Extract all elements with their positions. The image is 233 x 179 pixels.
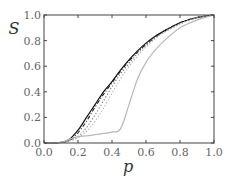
series-solid-light-gray xyxy=(44,15,214,143)
x-tick-label: 1.0 xyxy=(205,146,223,159)
x-tick-label: 0.8 xyxy=(171,146,189,159)
y-tick-label: 0.8 xyxy=(24,35,42,48)
y-tick-label: 0.2 xyxy=(24,111,42,124)
series-dotted-light xyxy=(44,15,214,143)
y-tick-label: 1.0 xyxy=(24,9,42,22)
plot-frame xyxy=(44,15,214,143)
x-tick-label: 0.2 xyxy=(69,146,87,159)
x-axis-ticks: 0.00.20.40.60.81.0 xyxy=(35,15,223,159)
x-tick-label: 0.6 xyxy=(137,146,155,159)
line-chart: 0.00.20.40.60.81.0 0.00.20.40.60.81.0 p … xyxy=(0,0,233,179)
series-solid-black xyxy=(44,15,214,143)
y-tick-label: 0.4 xyxy=(24,86,42,99)
x-tick-label: 0.4 xyxy=(103,146,121,159)
plot-area xyxy=(44,15,214,143)
y-axis-ticks: 0.00.20.40.60.81.0 xyxy=(24,9,215,150)
y-tick-label: 0.6 xyxy=(24,60,42,73)
x-axis-label: p xyxy=(123,157,133,176)
y-tick-label: 0.0 xyxy=(24,137,42,150)
y-axis-label: S xyxy=(9,19,20,38)
series-dashdot-black xyxy=(44,15,214,143)
series-dotted-dark xyxy=(44,15,214,143)
